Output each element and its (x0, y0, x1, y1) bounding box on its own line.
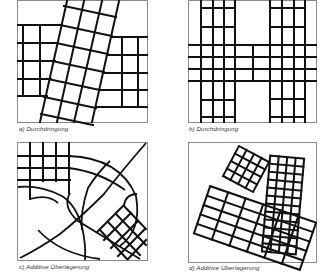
panel-b-diagram (189, 1, 317, 123)
panel-c-diagram (18, 143, 148, 261)
panel-a-diagram (18, 1, 148, 126)
panel-d-diagram (189, 143, 317, 270)
panel-b-caption: b) Durchdringung (189, 125, 238, 132)
figure-canvas (0, 0, 330, 273)
panel-a-caption: a) Durchdringung (19, 125, 68, 132)
panel-d-caption: d) Additive Überlagerung (189, 264, 260, 271)
panel-c-caption: c) Additive Überlagerung (19, 263, 89, 270)
